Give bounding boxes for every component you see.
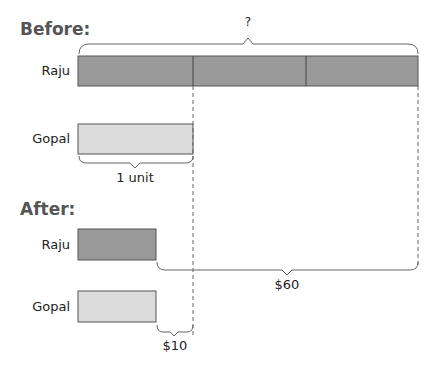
after-gopal-bar bbox=[78, 291, 156, 322]
before-heading: Before: bbox=[20, 19, 90, 39]
unit-label: 1 unit bbox=[100, 170, 170, 185]
unit-brace bbox=[79, 156, 193, 168]
before-raju-label: Raju bbox=[10, 63, 70, 78]
sixty-brace bbox=[157, 262, 418, 275]
after-raju-label: Raju bbox=[10, 237, 70, 252]
ten-label: $10 bbox=[155, 338, 195, 353]
before-raju-bar bbox=[78, 56, 418, 86]
before-gopal-label: Gopal bbox=[10, 131, 70, 146]
total-brace bbox=[79, 38, 418, 54]
bar-model-diagram bbox=[0, 0, 442, 376]
ten-brace bbox=[157, 325, 193, 336]
sixty-label: $60 bbox=[267, 277, 307, 292]
total-label: ? bbox=[238, 15, 258, 29]
after-raju-bar bbox=[78, 229, 156, 260]
before-gopal-bar bbox=[78, 124, 193, 154]
after-heading: After: bbox=[20, 199, 75, 219]
after-gopal-label: Gopal bbox=[10, 299, 70, 314]
